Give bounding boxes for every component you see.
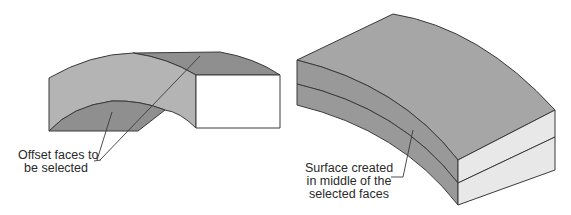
left-callout-label: Offset faces to be selected — [18, 149, 88, 175]
left-callout-line-2: be selected — [18, 162, 88, 175]
right-callout-label: Surface created in middle of the selecte… — [300, 162, 398, 201]
right-callout-line-3: selected faces — [300, 188, 398, 201]
diagram-canvas — [0, 0, 571, 215]
left-end-face — [196, 75, 280, 128]
left-solid — [49, 52, 280, 131]
